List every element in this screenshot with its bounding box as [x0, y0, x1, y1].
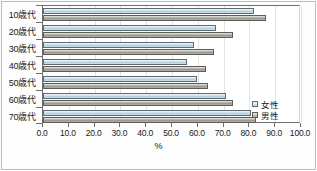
x-axis-tick — [197, 123, 198, 127]
x-axis-tick-label: 90.0 — [266, 128, 282, 138]
bar-group — [43, 24, 299, 38]
bar-group — [43, 41, 299, 55]
x-axis-tick-label: 80.0 — [241, 128, 257, 138]
male-swatch-icon — [252, 112, 258, 118]
x-axis-tick-label: 10.0 — [60, 128, 76, 138]
x-axis-tick — [119, 123, 120, 127]
bar-male — [43, 117, 256, 123]
y-axis-labels: 10歳代 20歳代 30歳代 40歳代 50歳代 60歳代 70歳代 — [0, 0, 36, 128]
y-axis-label-5: 60歳代 — [0, 93, 36, 106]
bar-chart-figure: 10歳代 20歳代 30歳代 40歳代 50歳代 60歳代 70歳代 0.010… — [0, 0, 317, 171]
legend-label-male: 男性 — [261, 109, 279, 121]
legend: 女性 男性 — [252, 98, 279, 120]
x-axis-tick — [300, 123, 301, 127]
y-axis-label-6: 70歳代 — [0, 110, 36, 123]
x-axis-tick-label: 0.0 — [36, 128, 47, 138]
legend-entry-female[interactable]: 女性 — [252, 98, 279, 109]
x-axis-tick-label: 20.0 — [86, 128, 102, 138]
x-axis-tick-label: 40.0 — [137, 128, 153, 138]
x-axis-tick — [145, 123, 146, 127]
bar-male — [43, 32, 233, 38]
x-axis-tick — [171, 123, 172, 127]
bar-group — [43, 58, 299, 72]
x-axis-tick — [94, 123, 95, 127]
bar-male — [43, 15, 266, 21]
y-axis-label-4: 50歳代 — [0, 76, 36, 89]
bar-female — [43, 110, 251, 116]
x-axis-tick-label: 30.0 — [112, 128, 128, 138]
x-axis-tick — [42, 123, 43, 127]
bar-male — [43, 83, 208, 89]
x-axis-tick — [223, 123, 224, 127]
y-axis-label-0: 10歳代 — [0, 8, 36, 21]
bar-group — [43, 75, 299, 89]
x-axis-tick-label: 60.0 — [189, 128, 205, 138]
gridline — [301, 6, 302, 122]
x-axis-tick-label: 70.0 — [215, 128, 231, 138]
x-axis-tick — [274, 123, 275, 127]
x-axis-title: % — [0, 141, 317, 151]
bar-female — [43, 93, 226, 99]
y-axis-label-3: 40歳代 — [0, 59, 36, 72]
bar-male — [43, 66, 206, 72]
bar-female — [43, 42, 194, 48]
legend-entry-male[interactable]: 男性 — [252, 109, 279, 120]
y-axis-label-2: 30歳代 — [0, 42, 36, 55]
bar-female — [43, 59, 187, 65]
bar-male — [43, 49, 214, 55]
y-axis-label-1: 20歳代 — [0, 25, 36, 38]
bar-female — [43, 76, 197, 82]
bar-female — [43, 25, 216, 31]
bar-male — [43, 100, 233, 106]
female-swatch-icon — [252, 101, 258, 107]
x-axis-tick-label: 100.0 — [290, 128, 310, 138]
x-axis-tick — [68, 123, 69, 127]
x-axis-tick-label: 50.0 — [163, 128, 179, 138]
x-axis-tick — [248, 123, 249, 127]
bar-group — [43, 7, 299, 21]
bar-female — [43, 8, 254, 14]
